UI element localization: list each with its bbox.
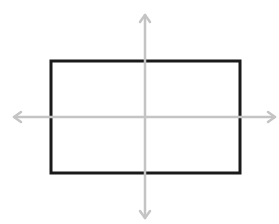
diagram-canvas: [0, 0, 279, 224]
diagram: [0, 0, 279, 224]
coordinate-axes: [14, 15, 275, 218]
